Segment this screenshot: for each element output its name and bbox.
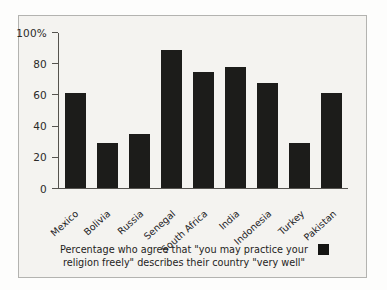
bar-south-africa bbox=[193, 72, 214, 188]
bar-bolivia bbox=[97, 143, 118, 188]
category-label-text: Mexico bbox=[48, 208, 80, 238]
y-axis-tick: 60 bbox=[52, 94, 58, 95]
y-axis-tick: 20 bbox=[52, 157, 58, 158]
legend-caption: Percentage who agree that "you may pract… bbox=[60, 243, 308, 269]
y-axis-tick: 40 bbox=[52, 126, 58, 127]
bar-slot bbox=[155, 33, 187, 188]
bar-slot bbox=[91, 33, 123, 188]
y-axis-tick-label: 40 bbox=[33, 120, 47, 132]
legend-color-swatch bbox=[318, 244, 329, 255]
bar-slot bbox=[316, 33, 348, 188]
bar-senegal bbox=[161, 50, 182, 188]
chart-legend: Percentage who agree that "you may pract… bbox=[35, 243, 354, 269]
y-axis-tick-label: 80 bbox=[33, 58, 47, 70]
category-label-text: India bbox=[217, 208, 242, 232]
y-axis-tick-label: 60 bbox=[33, 89, 47, 101]
plot-area: 020406080100% bbox=[58, 33, 348, 189]
bar-slot bbox=[220, 33, 252, 188]
y-axis-tick-label: 20 bbox=[33, 151, 47, 163]
bar-slot bbox=[187, 33, 219, 188]
bar-pakistan bbox=[321, 93, 342, 188]
bar-mexico bbox=[65, 93, 86, 188]
y-axis-tick: 80 bbox=[52, 63, 58, 64]
y-axis-tick: 100% bbox=[52, 32, 58, 33]
legend-caption-line-1: Percentage who agree that "you may pract… bbox=[60, 244, 308, 255]
bar-russia bbox=[129, 134, 150, 188]
y-axis-tick-label: 100% bbox=[16, 27, 47, 39]
legend-caption-line-2: religion freely" describes their country… bbox=[63, 257, 305, 268]
bar-slot bbox=[59, 33, 91, 188]
bar-slot bbox=[252, 33, 284, 188]
chart-figure: 020406080100% MexicoBoliviaRussiaSenegal… bbox=[18, 15, 367, 278]
bar-indonesia bbox=[257, 83, 278, 188]
y-axis-tick-label: 0 bbox=[40, 183, 47, 195]
y-axis-tick: 0 bbox=[52, 188, 58, 189]
bar-series bbox=[59, 33, 348, 188]
bar-slot bbox=[123, 33, 155, 188]
bar-slot bbox=[284, 33, 316, 188]
